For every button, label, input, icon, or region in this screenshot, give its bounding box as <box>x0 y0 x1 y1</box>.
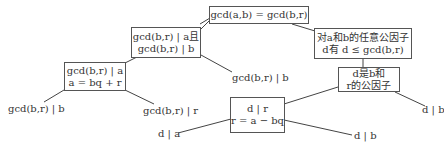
node-right2-line1: d是b和 <box>353 68 386 80</box>
leaf-gcd-divides-r: gcd(b,r) | r <box>143 105 198 117</box>
node-mid3: d | r r = a − bq <box>230 97 285 133</box>
node-right1-line1: 对a和b的任意公因子 <box>317 32 409 44</box>
node-left1-line2: gcd(b,r) | b <box>138 43 195 55</box>
edge-left2-leftb <box>44 90 64 102</box>
edge-mid3-da <box>178 119 231 133</box>
edge-left1-midb <box>201 55 232 72</box>
node-right1-line2: d有 d ≤ gcd(b,r) <box>322 44 403 56</box>
node-left2: gcd(b,r) | a a = bq + r <box>64 62 126 91</box>
node-mid3-line2: r = a − bq <box>231 115 284 127</box>
leaf-gcd-divides-b-mid: gcd(b,r) | b <box>232 72 289 84</box>
edge-right2-mid3 <box>284 87 338 104</box>
node-left1-line1: gcd(b,r) | a且 <box>133 31 199 43</box>
node-right2-line2: r的公因子 <box>347 80 392 92</box>
node-right2: d是b和 r的公因子 <box>338 67 400 92</box>
edge-left2-leftr <box>125 90 154 104</box>
node-mid3-line1: d | r <box>247 103 268 115</box>
node-left2-line1: gcd(b,r) | a <box>67 65 123 77</box>
leaf-gcd-divides-b-left: gcd(b,r) | b <box>8 103 65 115</box>
leaf-d-divides-b-low: d | b <box>354 130 377 142</box>
proof-tree-diagram: gcd(a,b) = gcd(b,r) gcd(b,r) | a且 gcd(b,… <box>0 0 444 148</box>
node-left2-line2: a = bq + r <box>68 77 121 89</box>
node-root-text: gcd(a,b) = gcd(b,r) <box>210 9 307 21</box>
edge-right2-db-right <box>395 92 425 106</box>
edge-mid3-db-low <box>284 120 352 135</box>
node-root: gcd(a,b) = gcd(b,r) <box>209 6 309 24</box>
node-right1: 对a和b的任意公因子 d有 d ≤ gcd(b,r) <box>314 28 412 59</box>
edge-root-right1 <box>292 24 315 31</box>
leaf-d-divides-a: d | a <box>158 128 180 140</box>
leaf-d-divides-b-right: d | b <box>422 104 444 116</box>
node-left1: gcd(b,r) | a且 gcd(b,r) | b <box>131 27 201 58</box>
